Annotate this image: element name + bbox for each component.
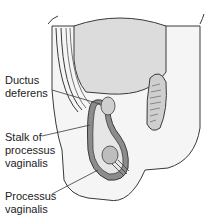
label-stalk-line2: processus [5, 144, 55, 157]
ductus-deferens-knob [101, 97, 115, 115]
label-processus-line1: Processus [5, 190, 56, 203]
wall-edge-left [48, 16, 58, 24]
label-stalk-line1: Stalk of [5, 131, 55, 144]
wall-edge-right [200, 14, 204, 24]
label-ductus-deferens: Ductus deferens [5, 74, 48, 100]
label-processus-vaginalis: Processus vaginalis [5, 190, 56, 216]
label-ductus-line2: deferens [5, 87, 48, 100]
testis [102, 146, 118, 164]
label-stalk-line3: vaginalis [5, 157, 55, 170]
label-stalk-of-processus-vaginalis: Stalk of processus vaginalis [5, 131, 55, 170]
label-processus-line2: vaginalis [5, 203, 56, 216]
label-ductus-line1: Ductus [5, 74, 48, 87]
